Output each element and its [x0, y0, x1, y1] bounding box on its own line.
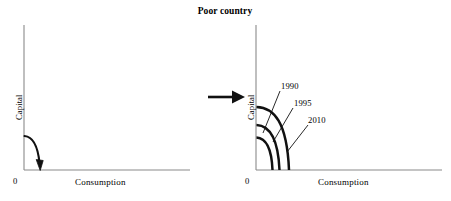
leader-line-2010: [287, 125, 308, 152]
curve-label-1995: 1995: [294, 98, 312, 108]
left-chart-plot: [0, 0, 205, 201]
right-origin-label: 0: [245, 176, 249, 186]
left-y-axis-label: Capital: [14, 94, 24, 120]
left-frontier-curve: [25, 136, 40, 163]
curve-2010: [257, 138, 273, 171]
figure-poor-country: Poor country Capital Consumption 0: [0, 0, 451, 201]
left-origin-label: 0: [13, 176, 17, 186]
left-x-axis-label: Consumption: [75, 177, 126, 188]
right-y-axis-label: Capital: [246, 94, 256, 120]
curve-label-1990: 1990: [281, 81, 299, 91]
left-frontier-arrowhead: [36, 160, 43, 171]
curve-label-2010: 2010: [308, 115, 326, 125]
leader-line-1990: [263, 91, 280, 133]
leader-line-1995: [273, 108, 293, 142]
chart-panel-right: 1990 1995 2010 Capital Consumption 0: [232, 0, 451, 201]
right-x-axis-label: Consumption: [318, 177, 369, 188]
chart-panel-left: Capital Consumption 0: [0, 0, 205, 201]
right-chart-plot: [232, 0, 451, 201]
